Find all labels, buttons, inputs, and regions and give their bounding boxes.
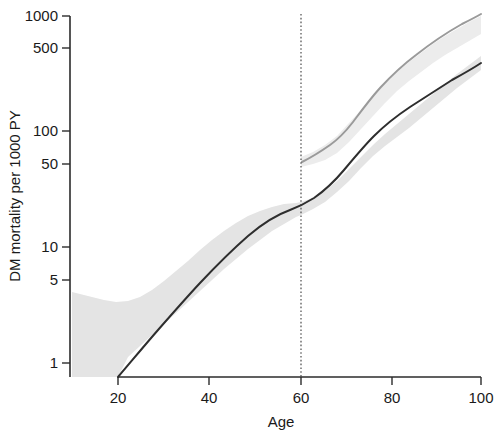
y-tick-label-1000: 1000 — [25, 7, 58, 24]
x-axis-ticks — [118, 377, 481, 385]
y-axis-title: DM mortality per 1000 PY — [6, 110, 23, 282]
x-tick-label-20: 20 — [110, 389, 127, 406]
x-tick-label-40: 40 — [201, 389, 218, 406]
y-axis-tick-labels: 1000 500 100 50 10 5 1 — [25, 7, 58, 371]
x-tick-label-100: 100 — [468, 389, 493, 406]
y-tick-label-500: 500 — [33, 39, 58, 56]
x-axis-tick-labels: 20 40 60 80 100 — [110, 389, 494, 406]
chart-figure: 1000 500 100 50 10 5 1 20 40 60 80 100 A… — [0, 0, 502, 436]
y-tick-label-100: 100 — [33, 122, 58, 139]
y-axis-ticks — [62, 16, 70, 363]
y-tick-label-5: 5 — [50, 271, 58, 288]
y-tick-label-50: 50 — [41, 155, 58, 172]
x-tick-label-80: 80 — [384, 389, 401, 406]
mortality-by-age-chart: 1000 500 100 50 10 5 1 20 40 60 80 100 A… — [0, 0, 502, 436]
x-tick-label-60: 60 — [293, 389, 310, 406]
confidence-band-secondary — [301, 16, 481, 167]
y-tick-label-10: 10 — [41, 238, 58, 255]
x-axis-title: Age — [268, 413, 295, 430]
y-tick-label-1: 1 — [50, 354, 58, 371]
